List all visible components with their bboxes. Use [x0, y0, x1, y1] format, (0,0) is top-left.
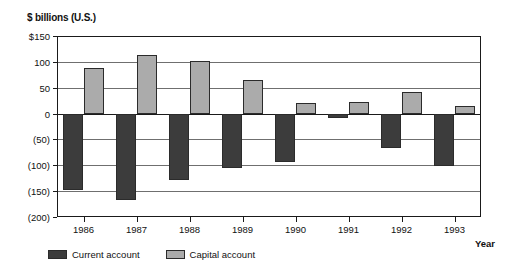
x-axis-tick-mark: [402, 217, 403, 222]
legend-label: Capital account: [190, 249, 255, 260]
bar-chart: $ billions (U.S.) $150100500(50)(100)(15…: [0, 0, 512, 275]
x-axis-title: Year: [475, 238, 495, 249]
x-axis-tick-mark: [296, 217, 297, 222]
x-axis-tick-mark: [84, 217, 85, 222]
x-axis-tick-label: 1993: [425, 224, 485, 235]
x-axis: 19861987198819891990199119921993: [0, 0, 512, 275]
x-axis-tick-mark: [455, 217, 456, 222]
legend-item-capital-account: Capital account: [166, 249, 255, 260]
legend-item-current-account: Current account: [48, 249, 140, 260]
x-axis-tick-mark: [137, 217, 138, 222]
x-axis-tick-mark: [243, 217, 244, 222]
x-axis-tick-label: 1989: [213, 224, 273, 235]
x-axis-tick-label: 1990: [266, 224, 326, 235]
x-axis-tick-mark: [190, 217, 191, 222]
legend-label: Current account: [72, 249, 140, 260]
legend: Current accountCapital account: [48, 249, 269, 260]
legend-swatch-icon: [166, 250, 185, 259]
x-axis-tick-label: 1988: [160, 224, 220, 235]
legend-swatch-icon: [48, 250, 67, 259]
x-axis-tick-label: 1992: [372, 224, 432, 235]
x-axis-tick-label: 1986: [54, 224, 114, 235]
x-axis-tick-label: 1987: [107, 224, 167, 235]
x-axis-tick-label: 1991: [319, 224, 379, 235]
x-axis-tick-mark: [349, 217, 350, 222]
